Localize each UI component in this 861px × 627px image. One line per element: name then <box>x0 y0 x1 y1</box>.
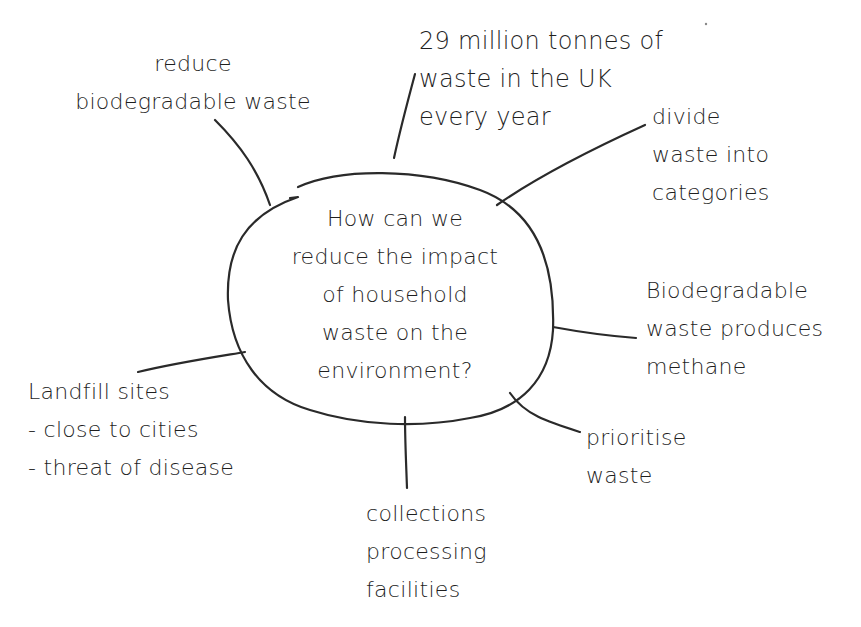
center-line: reduce the impact <box>265 238 525 276</box>
branch-collections: collections processing facilities <box>366 495 487 609</box>
branch-line: - close to cities <box>28 411 234 449</box>
branch-line: waste <box>586 457 686 495</box>
branch-line: methane <box>646 348 823 386</box>
branch-divide-waste: divide waste into categories <box>652 98 770 212</box>
branch-line: Landfill sites <box>28 373 234 411</box>
branch-line: divide <box>652 98 770 136</box>
center-line: environment? <box>265 352 525 390</box>
branch-line: waste produces <box>646 310 823 348</box>
connector-landfill <box>138 352 245 372</box>
branch-line: waste into <box>652 136 770 174</box>
branch-reduce-biodegradable: reduce biodegradable waste <box>68 45 318 121</box>
branch-line: Biodegradable <box>646 272 823 310</box>
connector-methane <box>553 327 636 338</box>
center-question: How can we reduce the impact of househol… <box>265 200 525 390</box>
connector-collections <box>405 417 407 488</box>
branch-prioritise: prioritise waste <box>586 419 686 495</box>
branch-line: - threat of disease <box>28 449 234 487</box>
connector-uk-stat <box>394 74 415 158</box>
branch-methane: Biodegradable waste produces methane <box>646 272 823 386</box>
branch-uk-waste-stat: 29 million tonnes of waste in the UK eve… <box>419 22 663 136</box>
branch-line: biodegradable waste <box>68 83 318 121</box>
branch-line: collections <box>366 495 487 533</box>
center-line: How can we <box>265 200 525 238</box>
branch-line: reduce <box>68 45 318 83</box>
center-line: waste on the <box>265 314 525 352</box>
center-line: of household <box>265 276 525 314</box>
branch-line: processing <box>366 533 487 571</box>
branch-line: categories <box>652 174 770 212</box>
connector-reduce <box>215 120 270 205</box>
branch-line: 29 million tonnes of <box>419 22 663 60</box>
branch-landfill: Landfill sites - close to cities - threa… <box>28 373 234 487</box>
branch-line: every year <box>419 98 663 136</box>
branch-line: prioritise <box>586 419 686 457</box>
connector-divide <box>497 125 645 205</box>
branch-line: facilities <box>366 571 487 609</box>
branch-line: waste in the UK <box>419 60 663 98</box>
stray-dot <box>705 23 707 25</box>
